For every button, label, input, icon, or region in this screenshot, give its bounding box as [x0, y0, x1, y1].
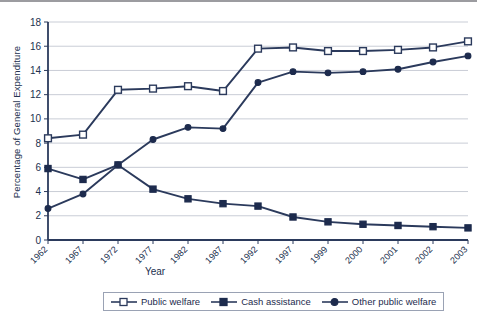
x-tick-label: 1972 [98, 244, 119, 265]
y-tick-label: 12 [30, 89, 42, 100]
y-tick-label: 6 [35, 162, 41, 173]
y-tick-label: 18 [30, 17, 42, 28]
x-tick-label: 2000 [343, 244, 364, 265]
series-line [48, 165, 468, 228]
data-point [255, 203, 261, 209]
series-line [48, 41, 468, 138]
data-point [255, 45, 262, 52]
data-point [395, 46, 402, 53]
chart-figure: Percentage of General Expenditure Year 0… [0, 0, 477, 318]
data-point [430, 224, 436, 230]
legend-label: Cash assistance [241, 297, 311, 307]
data-point [395, 66, 401, 72]
x-tick-label: 1999 [308, 244, 329, 265]
data-point [185, 83, 192, 90]
data-point [465, 225, 471, 231]
x-tick-label: 2002 [413, 244, 434, 265]
data-point [360, 69, 366, 75]
data-point [115, 162, 121, 168]
data-point [360, 48, 367, 55]
data-point [430, 44, 437, 51]
y-tick-label: 2 [35, 210, 41, 221]
data-point [395, 222, 401, 228]
data-point [45, 135, 52, 142]
data-point [325, 219, 331, 225]
y-tick-label: 10 [30, 113, 42, 124]
data-point [430, 59, 436, 65]
data-point [290, 214, 296, 220]
y-tick-label: 4 [35, 186, 41, 197]
data-point [80, 176, 86, 182]
x-tick-label: 2003 [448, 244, 469, 265]
data-point [45, 206, 51, 212]
y-tick-label: 16 [30, 41, 42, 52]
data-point [220, 201, 226, 207]
y-tick-label: 0 [35, 235, 41, 246]
data-point [150, 137, 156, 143]
legend-label: Public welfare [141, 297, 200, 307]
chart-svg: 0246810121416181962196719721977198219871… [0, 0, 477, 318]
chart-legend: Public welfare Cash assistance Other pub… [103, 292, 444, 311]
data-point [325, 70, 331, 76]
data-point [360, 221, 366, 227]
legend-label: Other public welfare [352, 297, 436, 307]
data-point [465, 53, 471, 59]
data-point [150, 186, 156, 192]
x-tick-label: 1977 [133, 244, 154, 265]
data-point [220, 88, 227, 95]
x-tick-label: 1967 [63, 244, 84, 265]
x-tick-label: 1962 [28, 244, 49, 265]
data-point [325, 48, 332, 55]
data-point [185, 196, 191, 202]
x-tick-label: 1987 [203, 244, 224, 265]
legend-marker-filled-circle [322, 297, 348, 307]
data-point [290, 69, 296, 75]
data-point [290, 44, 297, 51]
data-point [150, 85, 157, 92]
data-point [220, 126, 226, 132]
legend-item-cash-assistance[interactable]: Cash assistance [211, 297, 311, 307]
series-line [48, 56, 468, 209]
y-tick-label: 8 [35, 138, 41, 149]
legend-marker-open-square [111, 297, 137, 307]
legend-marker-filled-square [211, 297, 237, 307]
data-point [80, 131, 87, 138]
data-point [80, 191, 86, 197]
data-point [255, 80, 261, 86]
x-tick-label: 2001 [378, 244, 399, 265]
data-point [115, 86, 122, 93]
x-tick-label: 1997 [273, 244, 294, 265]
data-point [45, 165, 51, 171]
x-tick-label: 1982 [168, 244, 189, 265]
x-tick-label: 1992 [238, 244, 259, 265]
y-tick-label: 14 [30, 65, 42, 76]
data-point [185, 124, 191, 130]
plot-area: 0246810121416181962196719721977198219871… [0, 0, 477, 318]
data-point [465, 38, 472, 45]
legend-item-other-public-welfare[interactable]: Other public welfare [322, 297, 436, 307]
legend-item-public-welfare[interactable]: Public welfare [111, 297, 200, 307]
